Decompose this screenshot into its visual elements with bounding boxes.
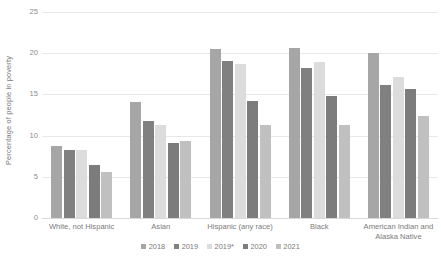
legend-label: 2019*: [215, 243, 234, 250]
bar: [101, 172, 112, 218]
legend-label: 2020: [250, 243, 266, 250]
legend-label: 2021: [283, 243, 299, 250]
bar: [405, 89, 416, 218]
legend-swatch-icon: [276, 244, 281, 249]
bar: [168, 143, 179, 218]
bar-group: [42, 12, 121, 218]
bar: [235, 64, 246, 218]
bar: [155, 125, 166, 218]
y-tick-label-25: 25: [16, 8, 38, 16]
x-axis-label-line: Black: [280, 222, 359, 232]
legend-label: 2018: [149, 243, 165, 250]
bar: [339, 125, 350, 218]
bar: [368, 53, 379, 218]
bar: [76, 150, 87, 218]
x-axis-label-line: Alaska Native: [359, 232, 438, 242]
x-axis-label-line: White, not Hispanic: [42, 222, 121, 232]
legend-item-2019[interactable]: 2019: [174, 243, 198, 250]
plot-area: [42, 12, 438, 218]
bar: [260, 125, 271, 218]
bar: [380, 85, 391, 218]
bar-group: [121, 12, 200, 218]
legend-swatch-icon: [141, 244, 146, 249]
bar: [393, 77, 404, 218]
legend-swatch-icon: [243, 244, 248, 249]
bar: [143, 121, 154, 218]
y-tick-label-15: 15: [16, 91, 38, 99]
y-tick-label-5: 5: [16, 173, 38, 181]
bar: [289, 48, 300, 218]
legend-item-2021[interactable]: 2021: [276, 243, 300, 250]
chart-legend: 201820192019*20202021: [0, 243, 441, 250]
legend-item-2019-star[interactable]: 2019*: [207, 243, 234, 250]
legend-item-2020[interactable]: 2020: [243, 243, 267, 250]
legend-swatch-icon: [207, 244, 212, 249]
y-tick-label-0: 0: [16, 214, 38, 222]
bar-groups: [42, 12, 438, 218]
bar: [64, 150, 75, 218]
bar: [210, 49, 221, 218]
x-axis-label-line: Hispanic (any race): [200, 222, 279, 232]
bar-group: [359, 12, 438, 218]
bar: [301, 68, 312, 218]
bar: [222, 61, 233, 218]
bar: [89, 165, 100, 218]
bar-group: [280, 12, 359, 218]
x-axis-label-line: Asian: [121, 222, 200, 232]
legend-swatch-icon: [174, 244, 179, 249]
gridline-0: [42, 218, 438, 219]
y-tick-label-20: 20: [16, 49, 38, 57]
bar-group: [200, 12, 279, 218]
bar: [247, 101, 258, 218]
bar: [326, 96, 337, 218]
bar: [130, 102, 141, 218]
legend-label: 2019: [182, 243, 198, 250]
bar: [180, 141, 191, 218]
bar: [314, 62, 325, 218]
bar: [418, 116, 429, 218]
poverty-rate-bar-chart: Percentage of people in poverty 05101520…: [0, 0, 441, 266]
legend-item-2018[interactable]: 2018: [141, 243, 165, 250]
x-axis-label-line: American Indian and: [359, 222, 438, 232]
y-axis-tick-labels: 0510152025: [12, 0, 38, 266]
bar: [51, 146, 62, 218]
y-tick-label-10: 10: [16, 132, 38, 140]
